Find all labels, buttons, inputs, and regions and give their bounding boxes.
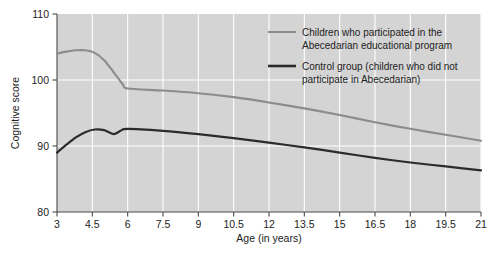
x-tick-label: 9 — [195, 218, 201, 230]
x-tick-label: 19.5 — [435, 218, 456, 230]
x-tick-label: 13.5 — [294, 218, 315, 230]
legend-entry-0-line1: Children who participated in the — [302, 27, 443, 38]
x-axis-title: Age (in years) — [236, 232, 301, 244]
x-tick-label: 16.5 — [365, 218, 386, 230]
x-tick-label: 6 — [125, 218, 131, 230]
x-tick-label: 21 — [475, 218, 487, 230]
x-tick-label: 12 — [263, 218, 275, 230]
x-tick-label: 18 — [404, 218, 416, 230]
legend-entry-1-line2: participate in Abecedarian) — [302, 74, 420, 85]
y-tick-label: 100 — [31, 74, 49, 86]
y-tick-label: 80 — [37, 206, 49, 218]
x-tick-label: 4.5 — [85, 218, 100, 230]
y-axis-title: Cognitive score — [9, 77, 21, 150]
legend-entry-0-line2: Abecedarian educational program — [302, 40, 452, 51]
y-tick-label: 90 — [37, 140, 49, 152]
y-tick-label: 110 — [32, 8, 49, 20]
x-tick-label: 10.5 — [223, 218, 244, 230]
x-tick-label: 3 — [54, 218, 60, 230]
chart-container: 34.567.5910.51213.51516.51819.521 809010… — [0, 0, 495, 253]
legend-entry-1-line1: Control group (children who did not — [302, 61, 458, 72]
x-tick-label: 7.5 — [156, 218, 171, 230]
cognitive-score-line-chart: 34.567.5910.51213.51516.51819.521 809010… — [0, 0, 495, 253]
x-tick-label: 15 — [334, 218, 346, 230]
